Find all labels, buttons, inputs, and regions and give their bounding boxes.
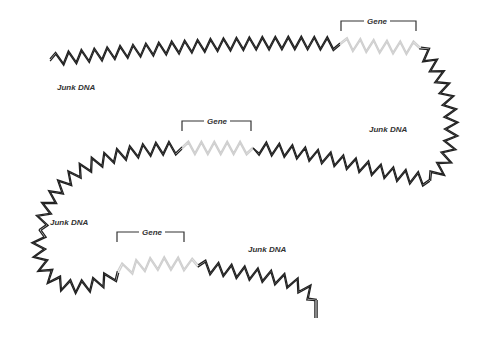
junk-dna-label: Junk DNA [57, 83, 95, 92]
junk-dna-label: Junk DNA [369, 125, 407, 134]
gene-label: Gene [139, 228, 165, 237]
dna-strand [32, 36, 459, 318]
junk-dna-label: Junk DNA [50, 218, 88, 227]
junk-dna-segment [198, 260, 317, 299]
junk-dna-segment [253, 144, 430, 187]
junk-dna-segment [50, 38, 340, 65]
junk-dna-segment [36, 141, 182, 230]
junk-dna-segment [421, 47, 459, 181]
dna-diagram [0, 0, 480, 337]
junk-dna-segment [253, 142, 430, 185]
junk-dna-segment [50, 36, 340, 63]
junk-dna-segment [32, 230, 119, 294]
gene-label: Gene [364, 17, 390, 26]
gene-label: Gene [204, 117, 230, 126]
junk-dna-segment [198, 262, 315, 300]
junk-dna-label: Junk DNA [248, 245, 286, 254]
